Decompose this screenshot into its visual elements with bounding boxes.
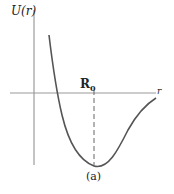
potential-curve [49, 35, 156, 167]
y-axis-label: U(r) [11, 4, 36, 18]
potential-energy-diagram [0, 0, 174, 194]
x-axis-label: r [157, 86, 161, 96]
figure-caption: (a) [86, 170, 101, 183]
equilibrium-label: R0 [80, 77, 96, 93]
